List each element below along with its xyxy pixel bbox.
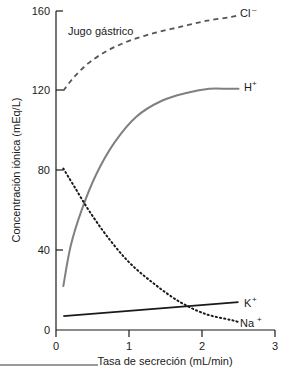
y-tick-label-160: 160 <box>32 5 50 17</box>
series-line-k <box>63 302 238 316</box>
y-axis-title: Concentración iónica (mEq/L) <box>10 98 22 243</box>
series-label-na-text: Na <box>240 317 255 329</box>
ionic-concentration-line-chart: 160 120 80 40 0 0 1 2 3 Tasa de secreció… <box>0 0 289 368</box>
x-tick-label-3: 3 <box>272 340 278 352</box>
y-tick-label-0: 0 <box>44 324 50 336</box>
series-label-cl-superscript: – <box>252 5 257 14</box>
chart-container: 160 120 80 40 0 0 1 2 3 Tasa de secreció… <box>0 0 289 368</box>
series-label-h-superscript: + <box>252 79 257 88</box>
x-axis-title: Tasa de secreción (mL/min) <box>97 355 232 367</box>
bottom-divider-rule <box>0 364 98 366</box>
series-label-na: Na + <box>240 315 262 329</box>
series-line-h <box>63 88 238 286</box>
series-label-k-superscript: + <box>252 295 257 304</box>
x-tick-label-1: 1 <box>126 340 132 352</box>
x-tick-label-0: 0 <box>53 340 59 352</box>
series-label-cl: Cl – <box>240 5 257 19</box>
series-label-k: K + <box>244 295 257 309</box>
x-tick-label-2: 2 <box>199 340 205 352</box>
series-label-na-superscript: + <box>257 315 262 324</box>
y-tick-label-40: 40 <box>38 244 50 256</box>
y-tick-label-120: 120 <box>32 84 50 96</box>
series-label-h: H + <box>244 79 257 93</box>
series-label-cl-text: Cl <box>240 7 250 19</box>
series-label-h-text: H <box>244 81 252 93</box>
series-label-k-text: K <box>244 297 252 309</box>
y-tick-label-80: 80 <box>38 164 50 176</box>
chart-annotation-jugo-gastrico: Jugo gástrico <box>68 25 133 37</box>
